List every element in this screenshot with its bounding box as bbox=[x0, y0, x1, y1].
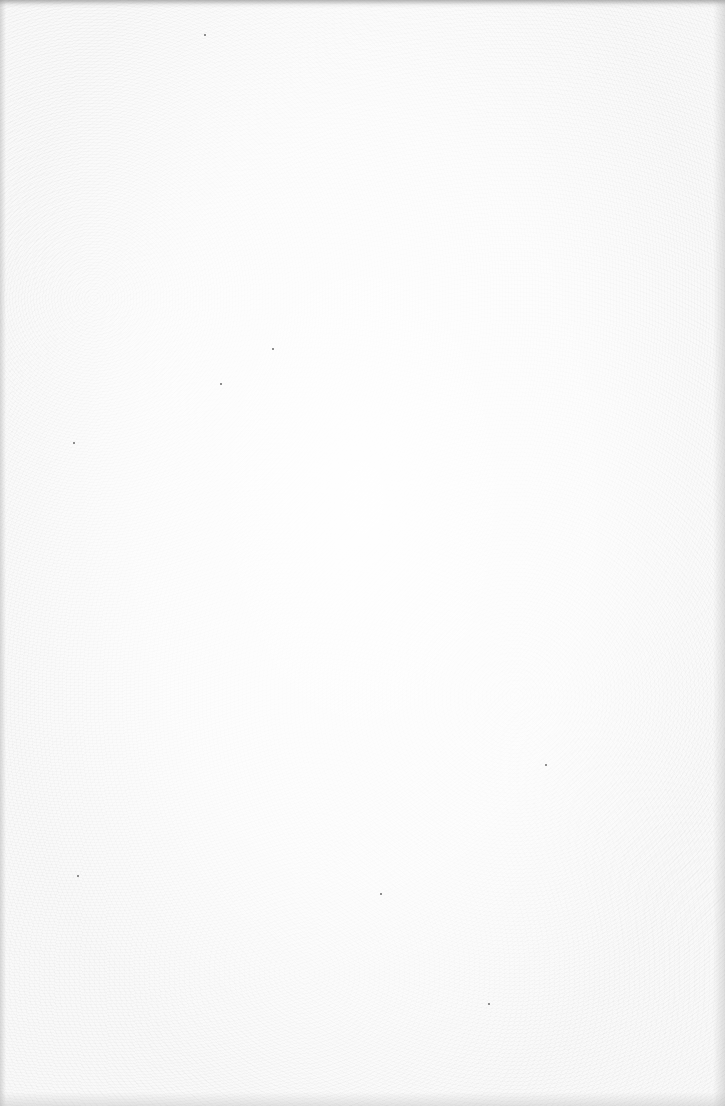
scan-edge-bottom bbox=[0, 1092, 725, 1106]
paper-speck bbox=[272, 348, 274, 350]
scan-edge-left bbox=[0, 0, 6, 1106]
scan-edge-top bbox=[0, 0, 725, 8]
paper-speck bbox=[220, 383, 222, 385]
paper-speck bbox=[380, 893, 382, 895]
paper-speck bbox=[77, 875, 79, 877]
paper-speck bbox=[545, 764, 547, 766]
paper-speck bbox=[204, 34, 206, 36]
blank-paper-page bbox=[0, 0, 725, 1106]
paper-speck bbox=[73, 442, 75, 444]
scan-edge-right bbox=[713, 0, 725, 1106]
paper-speck bbox=[488, 1003, 490, 1005]
